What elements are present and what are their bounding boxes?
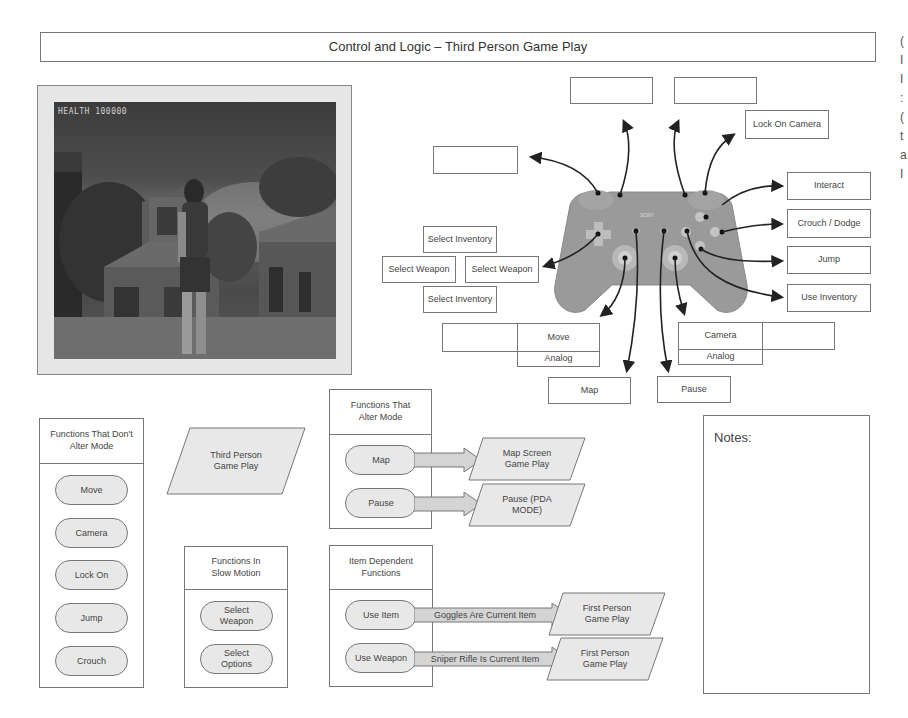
label-dpad-left-select-weapon: Select Weapon <box>382 256 456 283</box>
panel-title: Functions In Slow Motion <box>185 547 287 590</box>
label-r2-empty <box>674 77 757 104</box>
label-r1-lock-on-camera: Lock On Camera <box>745 110 829 139</box>
state-first-person-goggles: First Person Game Play <box>548 592 666 636</box>
label-right-stick-blank <box>762 322 835 350</box>
transition-arrow-goggles: Goggles Are Current Item <box>414 603 570 627</box>
state-label: Third Person Game Play <box>206 450 266 473</box>
pill-jump: Jump <box>55 603 128 633</box>
label-dpad-right-select-weapon: Select Weapon <box>465 256 539 283</box>
state-map-screen-game-play: Map Screen Game Play <box>468 437 586 481</box>
state-first-person-sniper: First Person Game Play <box>546 637 664 681</box>
pill-crouch: Crouch <box>55 646 128 676</box>
label-select-map: Map <box>548 377 631 404</box>
label-triangle-interact: Interact <box>787 172 871 200</box>
label-cross-jump: Jump <box>787 246 871 274</box>
panel-title: Functions That Don't Alter Mode <box>40 419 143 464</box>
label-left-stick-move: Move <box>517 323 600 352</box>
pill-lock-on: Lock On <box>55 560 128 590</box>
notes-panel: Notes: <box>703 415 870 694</box>
label-l1-empty <box>433 146 518 174</box>
label-right-stick-analog: Analog <box>678 349 763 365</box>
panel-title: Functions That Alter Mode <box>330 390 431 435</box>
pill-move: Move <box>55 475 128 505</box>
pill-use-weapon: Use Weapon <box>345 643 417 673</box>
pill-pause: Pause <box>345 488 417 518</box>
transition-condition: Sniper Rifle Is Current Item <box>431 654 540 664</box>
panel-title: Item Dependent Functions <box>330 546 432 590</box>
pill-map: Map <box>345 445 417 475</box>
notes-label: Notes: <box>714 430 752 445</box>
label-dpad-down-select-inventory: Select Inventory <box>423 286 497 313</box>
label-use-inventory: Use Inventory <box>787 284 871 312</box>
svg-text:SONY: SONY <box>640 212 655 218</box>
state-pause-pda-mode: Pause (PDA MODE) <box>468 483 586 527</box>
notes-body[interactable] <box>714 452 859 683</box>
state-label: Pause (PDA MODE) <box>496 494 558 517</box>
label-left-stick-analog: Analog <box>517 351 600 367</box>
state-label: First Person Game Play <box>578 648 633 671</box>
state-label: First Person Game Play <box>580 603 635 626</box>
label-circle-crouch-dodge: Crouch / Dodge <box>787 209 871 238</box>
pill-select-options: Select Options <box>200 644 273 674</box>
pill-camera: Camera <box>55 518 128 548</box>
state-third-person-game-play: Third Person Game Play <box>165 426 307 496</box>
label-left-stick-blank <box>442 323 518 352</box>
transition-condition: Goggles Are Current Item <box>434 610 536 620</box>
pill-select-weapon: Select Weapon <box>200 601 273 631</box>
pill-use-item: Use Item <box>345 600 417 630</box>
controller-icon: SONY <box>555 190 748 312</box>
state-label: Map Screen Game Play <box>500 448 555 471</box>
label-start-pause: Pause <box>657 376 731 403</box>
label-right-stick-camera: Camera <box>678 322 763 350</box>
label-l2-empty <box>570 77 653 104</box>
label-dpad-up-select-inventory: Select Inventory <box>423 226 497 253</box>
